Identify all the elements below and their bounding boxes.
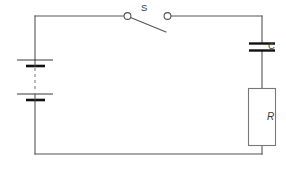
circuit-schematic-svg: [0, 0, 286, 171]
switch-left-terminal[interactable]: [124, 13, 131, 20]
switch-right-terminal[interactable]: [164, 13, 171, 20]
switch-lever[interactable]: [131, 18, 167, 32]
resistor-label: R: [267, 112, 274, 122]
circuit-diagram: S C R: [0, 0, 286, 171]
switch-label: S: [141, 3, 147, 13]
capacitor-label: C: [268, 41, 275, 51]
